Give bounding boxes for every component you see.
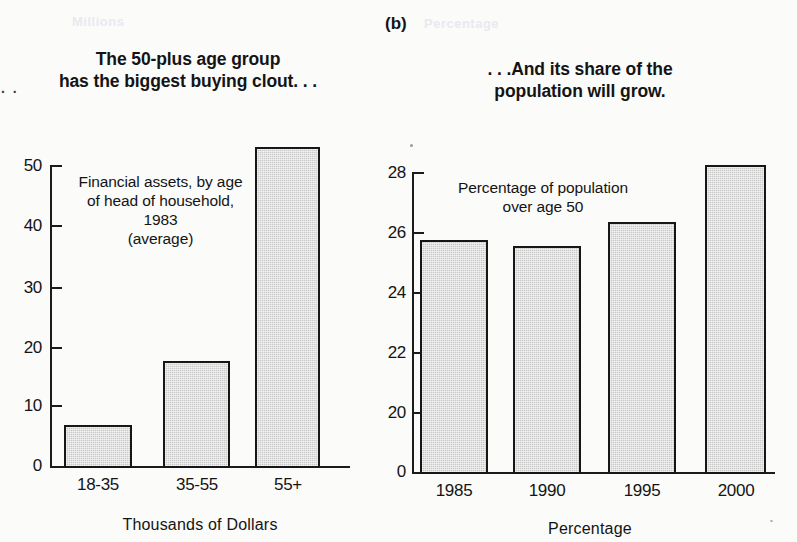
left-y-axis [50,165,52,468]
right-ytick-label-20: 20 [372,403,406,423]
bar-1990 [513,246,581,474]
ghost-text-right: Percentage [424,16,499,31]
right-plot-area: 28 26 24 22 20 0 Percentage of populatio… [390,120,797,542]
left-ytick-label-40: 40 [8,216,42,236]
bar-2000 [705,165,766,474]
left-ytick-label-20: 20 [8,338,42,358]
bar-55-plus [255,147,320,468]
left-plot-area: 50 40 30 20 10 0 Financial assets, by ag… [0,120,380,542]
left-panel-headline: The 50-plus age group has the biggest bu… [18,48,358,92]
left-annotation-line-1: Financial assets, by age [58,172,263,191]
figure-page: Millions Percentage (b) . . The 50-plus … [0,0,797,542]
right-axis-caption: Percentage [420,520,760,538]
left-ytick-label-50: 50 [8,156,42,176]
panel-letter-b: (b) [385,14,407,34]
left-plot-annotation: Financial assets, by age of head of hous… [58,172,263,248]
right-headline-line-1: . . .And its share of the [430,58,730,80]
left-ytick-label-30: 30 [8,278,42,298]
right-xtick-label-1985: 1985 [414,481,494,501]
bar-18-35 [64,425,132,468]
bar-35-55 [163,361,230,468]
right-plot-annotation: Percentage of population over age 50 [428,178,658,216]
right-annotation-line-1: Percentage of population [428,178,658,197]
right-headline-line-2: population will grow. [430,80,730,102]
right-ytick-label-0: 0 [372,462,406,482]
left-annotation-line-3: 1983 [58,210,263,229]
right-xtick-label-1990: 1990 [507,481,587,501]
left-axis-caption: Thousands of Dollars [40,516,360,534]
left-annotation-line-4: (average) [58,229,263,248]
chart-share-of-population-over-50: 28 26 24 22 20 0 Percentage of populatio… [390,120,797,542]
left-ytick-50 [50,165,62,167]
ghost-text-left: Millions [72,14,124,29]
right-ytick-26 [412,232,424,234]
left-annotation-line-2: of head of household, [58,191,263,210]
right-ytick-28 [412,172,424,174]
left-ytick-label-10: 10 [8,396,42,416]
left-ytick-30 [50,287,62,289]
right-ytick-label-24: 24 [372,283,406,303]
left-ytick-10 [50,405,62,407]
left-headline-line-1: The 50-plus age group [18,48,358,70]
left-xtick-label-35-55: 35-55 [157,475,237,495]
right-ytick-label-28: 28 [372,163,406,183]
right-panel-headline: . . .And its share of the population wil… [430,58,730,102]
right-ytick-label-26: 26 [372,223,406,243]
right-annotation-line-2: over age 50 [428,197,658,216]
bar-1995 [608,222,676,474]
left-headline-line-2: has the biggest buying clout. . . [18,70,358,92]
left-ytick-label-0: 0 [8,456,42,476]
right-ytick-label-22: 22 [372,343,406,363]
right-y-axis [412,172,414,473]
bar-1985 [420,240,488,474]
left-ytick-20 [50,347,62,349]
left-xtick-label-55-plus: 55+ [248,475,328,495]
stray-dots: . . [1,80,19,96]
chart-financial-assets-by-age: 50 40 30 20 10 0 Financial assets, by ag… [0,120,380,542]
right-xtick-label-2000: 2000 [696,481,776,501]
right-xtick-label-1995: 1995 [602,481,682,501]
left-xtick-label-18-35: 18-35 [58,475,138,495]
